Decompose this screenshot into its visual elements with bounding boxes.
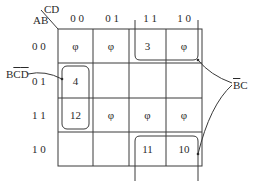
cell-1110: φ xyxy=(166,98,202,132)
row-header-01: 0 1 xyxy=(32,75,46,87)
col-header-01: 0 1 xyxy=(99,12,125,24)
cell-0011: 3 xyxy=(129,29,166,63)
cell-1001 xyxy=(93,132,129,166)
cell-1000 xyxy=(58,132,93,166)
cell-1111: φ xyxy=(129,98,166,132)
row-header-10: 1 0 xyxy=(32,143,46,155)
col-header-10: 1 0 xyxy=(171,12,197,24)
cell-0100: 4 xyxy=(58,63,93,98)
col-header-00: 0 0 xyxy=(64,12,90,24)
cell-0111 xyxy=(129,63,166,98)
cell-0001: φ xyxy=(93,29,129,63)
cell-0010: φ xyxy=(166,29,202,63)
row-variable-label: AB xyxy=(33,14,48,26)
cell-1010: 10 xyxy=(166,132,202,166)
cell-1100: 12 xyxy=(58,98,93,132)
cell-0101 xyxy=(93,63,129,98)
cell-0110 xyxy=(166,63,202,98)
cell-1011: 11 xyxy=(129,132,166,166)
row-header-11: 1 1 xyxy=(32,109,46,121)
col-header-11: 1 1 xyxy=(137,12,163,24)
row-header-00: 0 0 xyxy=(32,40,46,52)
group-label-bc: BC xyxy=(233,79,248,91)
cell-0000: φ xyxy=(58,29,93,63)
group-label-bcd: BCD xyxy=(6,68,29,80)
cell-1101: φ xyxy=(93,98,129,132)
